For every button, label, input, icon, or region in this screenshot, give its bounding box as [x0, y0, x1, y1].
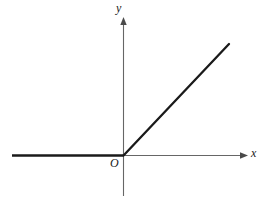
coordinate-plot	[0, 0, 267, 201]
graph-figure: y x O	[0, 0, 267, 201]
y-axis-arrowhead	[120, 17, 126, 25]
x-axis-arrowhead	[240, 152, 248, 158]
origin-label: O	[110, 157, 119, 169]
relu-rising-ray	[124, 44, 230, 156]
y-axis-label: y	[116, 2, 121, 14]
x-axis-label: x	[251, 147, 256, 159]
